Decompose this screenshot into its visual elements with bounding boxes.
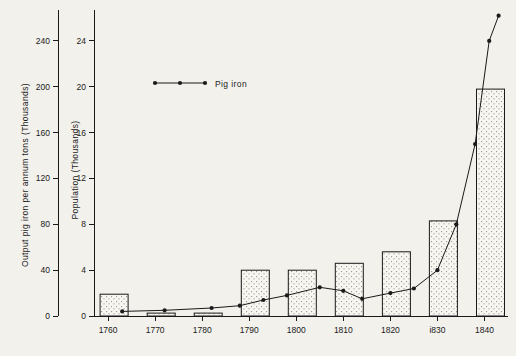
pig-iron-tick-label: 160 [36, 128, 50, 138]
data-point [261, 298, 265, 302]
data-point [318, 285, 322, 289]
population-tick-label: 24 [77, 36, 87, 46]
data-point [360, 297, 364, 301]
legend-marker [178, 81, 182, 85]
population-tick-label: 0 [81, 311, 86, 321]
bar-1810 [335, 263, 363, 316]
data-point [285, 293, 289, 297]
left-axis-title: Output pig iron per annum tons (Thousand… [20, 83, 30, 267]
legend-marker [153, 81, 157, 85]
right-axis-title: Population (Thousands) [70, 120, 80, 219]
population-tick-label: 20 [77, 82, 87, 92]
data-point [238, 304, 242, 308]
x-tick-label: 1840 [475, 325, 494, 335]
pig-iron-tick-label: 200 [36, 82, 50, 92]
population-tick-label: 8 [81, 219, 86, 229]
pig-iron-population-chart: 0481216202404080120160200240176017701780… [0, 0, 516, 356]
bars-group [100, 89, 504, 316]
x-tick-label: 1820 [381, 325, 400, 335]
bar-1820 [382, 252, 410, 316]
pig-iron-tick-label: 80 [41, 219, 51, 229]
bar-1800 [288, 270, 316, 316]
chart-container: 0481216202404080120160200240176017701780… [0, 0, 516, 356]
data-point [163, 308, 167, 312]
pig-iron-tick-label: 0 [45, 311, 50, 321]
x-tick-label: 1770 [146, 325, 165, 335]
bar-1840 [477, 89, 505, 316]
x-tick-label: i830 [429, 325, 445, 335]
data-point [487, 39, 491, 43]
data-point [497, 14, 501, 18]
legend-label: Pig iron [215, 79, 247, 89]
data-point [120, 309, 124, 313]
data-point [210, 306, 214, 310]
x-tick-label: 1810 [334, 325, 353, 335]
pig-iron-tick-label: 120 [36, 173, 50, 183]
population-tick-label: 4 [81, 265, 86, 275]
data-point [454, 222, 458, 226]
legend: Pig iron [153, 79, 247, 89]
data-point [341, 289, 345, 293]
x-tick-label: 1780 [193, 325, 212, 335]
pig-iron-tick-label: 240 [36, 36, 50, 46]
data-point [412, 286, 416, 290]
data-point [435, 268, 439, 272]
bar-1790 [241, 270, 269, 316]
data-point [388, 291, 392, 295]
bar-1760 [100, 294, 128, 316]
x-tick-label: 1760 [99, 325, 118, 335]
data-point [473, 142, 477, 146]
bar-1830 [429, 221, 457, 316]
x-tick-label: 1790 [240, 325, 259, 335]
x-tick-label: 1800 [287, 325, 306, 335]
legend-marker [203, 81, 207, 85]
pig-iron-tick-label: 40 [41, 265, 51, 275]
